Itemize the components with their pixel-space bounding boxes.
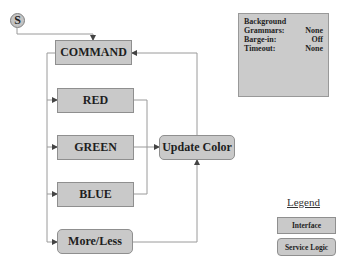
node-red: RED	[57, 88, 134, 113]
node-command-label: COMMAND	[60, 45, 127, 60]
node-update-color-label: Update Color	[162, 140, 232, 155]
node-more-less: More/Less	[57, 229, 133, 254]
node-red-label: RED	[83, 93, 108, 108]
info-panel-title: Background	[244, 17, 323, 26]
legend-item-label: Service Logic	[285, 243, 328, 252]
node-blue: BLUE	[57, 182, 134, 207]
info-value: None	[305, 26, 323, 35]
start-circle-icon: S	[10, 13, 25, 28]
node-more-less-label: More/Less	[68, 234, 122, 249]
legend-item-interface: Interface	[277, 217, 336, 234]
info-value: None	[305, 44, 323, 53]
info-label: Timeout:	[244, 44, 275, 53]
info-row-grammars: Grammars: None	[244, 26, 323, 35]
node-blue-label: BLUE	[79, 187, 112, 202]
start-label: S	[14, 13, 21, 28]
node-update-color: Update Color	[159, 135, 235, 160]
node-green: GREEN	[57, 135, 134, 160]
info-row-barge-in: Barge-in: Off	[244, 35, 323, 44]
node-green-label: GREEN	[74, 140, 117, 155]
info-label: Grammars:	[244, 26, 284, 35]
info-row-timeout: Timeout: None	[244, 44, 323, 53]
legend-title: Legend	[287, 196, 320, 208]
legend-item-service-logic: Service Logic	[277, 238, 336, 256]
info-panel: Background Grammars: None Barge-in: Off …	[238, 13, 329, 97]
info-label: Barge-in:	[244, 35, 276, 44]
legend-item-label: Interface	[292, 221, 321, 230]
node-command: COMMAND	[55, 40, 132, 65]
info-value: Off	[311, 35, 323, 44]
